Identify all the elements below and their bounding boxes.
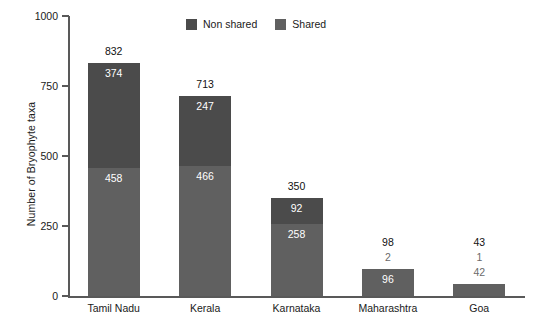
y-tick-label-750: 750 [12,80,58,92]
bar-segment-shared[interactable]: 96 [362,269,414,296]
bar-value-non-shared-outside: 2 [362,251,414,263]
y-tick-label-250: 250 [12,220,58,232]
y-tick-label-1000: 1000 [12,10,58,22]
y-tick-label-500: 500 [12,150,58,162]
bar-segment-value-non-shared: 247 [179,100,231,112]
y-tick-label-0: 0 [12,290,58,302]
bar-segment-value-shared: 258 [271,228,323,240]
plot-area: 374458832247466713922583509629842143 [68,16,525,296]
bar-value-non-shared-outside: 1 [453,251,505,263]
bar-chart: Number of Bryophyte taxa 02505007501000 … [0,0,533,332]
bar-stack[interactable]: 92258 [271,198,323,296]
bar-segment-non-shared[interactable]: 92 [271,198,323,224]
bar-segment-shared[interactable]: 466 [179,166,231,296]
bar-segment-value-non-shared: 374 [88,67,140,79]
bar-segment-value-shared: 466 [179,170,231,182]
bar-stack[interactable]: 247466 [179,96,231,296]
bar-segment-non-shared[interactable]: 374 [88,63,140,168]
bar-total-label: 43 [453,236,505,248]
x-axis-line [68,296,525,298]
bar-segment-value-shared: 96 [362,273,414,285]
bar-total-label: 832 [88,45,140,57]
bar-total-label: 350 [271,180,323,192]
bar-stack[interactable]: 96 [362,269,414,296]
bar-segment-value-non-shared: 92 [271,202,323,214]
bar-stack[interactable]: 374458 [88,63,140,296]
bar-value-shared-outside: 42 [453,266,505,278]
x-tick-label-goa: Goa [424,302,533,314]
bar-segment-shared[interactable] [453,284,505,296]
bar-segment-non-shared[interactable]: 247 [179,96,231,165]
bar-stack[interactable] [453,284,505,296]
bar-total-label: 98 [362,236,414,248]
bar-total-label: 713 [179,78,231,90]
bar-segment-shared[interactable]: 258 [271,224,323,296]
bar-segment-value-shared: 458 [88,172,140,184]
bar-segment-shared[interactable]: 458 [88,168,140,296]
